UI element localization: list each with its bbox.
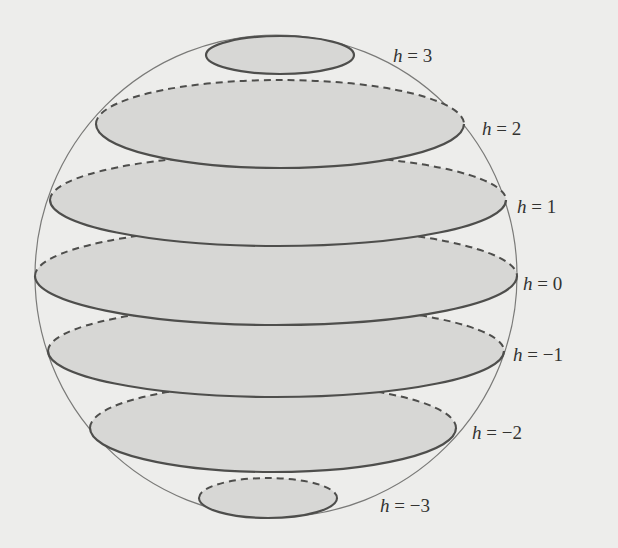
label-value: = −1	[523, 344, 563, 365]
slice-h--3	[199, 478, 337, 518]
label-h--1: h = −1	[513, 344, 563, 365]
label-variable: h	[482, 118, 492, 139]
label-h--2: h = −2	[472, 422, 522, 443]
label-variable: h	[523, 273, 533, 294]
label-variable: h	[380, 495, 390, 516]
label-value: = −2	[482, 422, 522, 443]
label-h--3: h = −3	[380, 495, 430, 516]
label-variable: h	[393, 45, 403, 66]
label-h-1: h = 1	[517, 196, 556, 217]
label-value: = 2	[492, 118, 522, 139]
label-variable: h	[517, 196, 527, 217]
label-variable: h	[513, 344, 523, 365]
label-value: = 0	[533, 273, 563, 294]
label-value: = 3	[403, 45, 433, 66]
diagram-canvas: h = −3h = −2h = −1h = 0h = 1h = 2h = 3	[0, 0, 618, 548]
label-h-3: h = 3	[393, 45, 432, 66]
label-variable: h	[472, 422, 482, 443]
sphere-level-sets-diagram: h = −3h = −2h = −1h = 0h = 1h = 2h = 3	[0, 0, 618, 548]
slice-h-2	[96, 80, 464, 168]
label-value: = −3	[390, 495, 430, 516]
slice-h-3	[206, 36, 354, 74]
label-h-0: h = 0	[523, 273, 562, 294]
label-value: = 1	[527, 196, 557, 217]
label-h-2: h = 2	[482, 118, 521, 139]
slice-group	[35, 36, 517, 518]
